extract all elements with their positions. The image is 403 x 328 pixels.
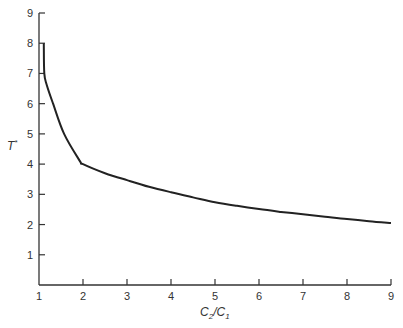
x-tick-label: 2: [80, 290, 86, 302]
x-tick-label: 1: [36, 290, 42, 302]
x-ticks: 123456789: [36, 279, 394, 302]
y-ticks: 123456789: [27, 7, 45, 261]
x-tick-label: 3: [124, 290, 130, 302]
x-tick-label: 5: [212, 290, 218, 302]
y-tick-label: 3: [27, 188, 33, 200]
y-tick-label: 1: [27, 249, 33, 261]
y-axis-label: T*: [7, 138, 18, 153]
y-tick-label: 8: [27, 37, 33, 49]
x-tick-label: 4: [168, 290, 174, 302]
chart: 123456789 123456789 T* C2/C1: [0, 0, 403, 328]
y-tick-label: 2: [27, 219, 33, 231]
y-tick-label: 5: [27, 128, 33, 140]
x-tick-label: 8: [344, 290, 350, 302]
y-tick-label: 4: [27, 158, 33, 170]
axes: [39, 13, 391, 285]
x-tick-label: 6: [256, 290, 262, 302]
x-tick-label: 7: [300, 290, 306, 302]
y-tick-label: 7: [27, 67, 33, 79]
data-series-curve: [44, 43, 391, 223]
y-tick-label: 6: [27, 98, 33, 110]
x-axis-label: C2/C1: [200, 305, 230, 321]
x-tick-label: 9: [388, 290, 394, 302]
y-tick-label: 9: [27, 7, 33, 19]
